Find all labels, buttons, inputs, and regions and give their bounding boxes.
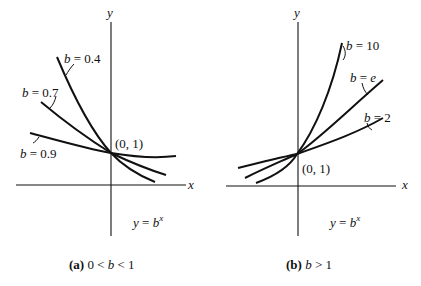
panel-b-caption: (b) b > 1: [286, 257, 332, 272]
label-b-0.4: b = 0.4: [64, 51, 101, 66]
exponential-graphs-figure: y x (0, 1) b = 0.4 b = 0.7 b = 0.9 y = b…: [0, 0, 421, 286]
panel-a: [16, 22, 186, 236]
label-b-0.9: b = 0.9: [20, 146, 57, 161]
panel-b-equation: y = bx: [328, 213, 360, 230]
leader-b-0.9: [33, 137, 39, 143]
panel-a-caption: (a) 0 < b < 1: [69, 257, 135, 272]
label-b-10: b = 10: [346, 38, 379, 53]
curve-b-0.7: [41, 102, 166, 175]
panel-a-x-axis-label: x: [187, 177, 194, 192]
panel-b-x-axis-label: x: [401, 177, 408, 192]
label-b-2: b = 2: [364, 110, 391, 125]
panel-a-point-label: (0, 1): [115, 136, 143, 151]
panel-b-point-label: (0, 1): [302, 161, 330, 176]
panel-b: [226, 22, 396, 236]
panel-a-y-axis-label: y: [105, 5, 113, 20]
panel-a-equation: y = bx: [131, 213, 163, 230]
curve-b-0.4: [57, 57, 155, 182]
label-b-e: b = e: [350, 70, 376, 85]
panel-b-y-axis-label: y: [292, 5, 300, 20]
label-b-0.7: b = 0.7: [22, 85, 59, 100]
leader-b-10: [343, 46, 345, 60]
